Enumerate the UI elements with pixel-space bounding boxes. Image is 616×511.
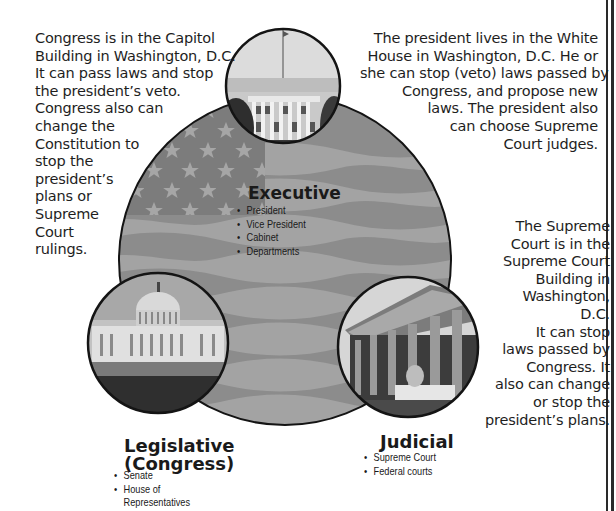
description-line: The Supreme [470, 218, 610, 236]
judicial-list: •Supreme Court •Federal courts [364, 451, 436, 478]
description-line: Court is in the [470, 236, 610, 254]
description-line: Court [35, 224, 235, 242]
bullet-icon: • [237, 218, 247, 232]
description-line: Congress. It [470, 359, 610, 377]
description-line: or stop the [470, 394, 610, 412]
legislative-description: Congress is in the Capitol Building in W… [35, 30, 235, 259]
judicial-description: The Supreme Court is in the Supreme Cour… [470, 218, 610, 429]
list-item-label: Representatives [124, 496, 190, 508]
list-item: •Departments [237, 245, 306, 259]
list-item: •House of [114, 483, 190, 497]
description-line: the president’s veto. [35, 83, 235, 101]
description-line: It can stop [470, 324, 610, 342]
description-line: can choose Supreme [360, 118, 598, 136]
list-item-label: Federal courts [374, 465, 433, 477]
list-item-label: House of [124, 483, 161, 495]
bullet-icon: • [114, 483, 124, 497]
description-line: she can stop (veto) laws passed by [360, 65, 598, 83]
judicial-title: Judicial [380, 433, 454, 450]
bullet-icon: • [364, 451, 374, 465]
description-line: Building in Washington, D.C. [35, 48, 235, 66]
legislative-list: •Senate •House of Representatives [114, 469, 190, 510]
description-line: laws. The president also [360, 100, 598, 118]
description-line: Building in [470, 271, 610, 289]
bullet-icon: • [237, 245, 247, 259]
list-item-label: Senate [124, 469, 153, 481]
description-line: Supreme [35, 206, 235, 224]
description-line: Washington, [470, 288, 610, 306]
list-item-label: Vice President [247, 218, 306, 230]
description-line: change the [35, 118, 235, 136]
list-item: •Cabinet [237, 231, 306, 245]
list-item-label: President [247, 204, 286, 216]
bullet-icon: • [364, 465, 374, 479]
list-item-label: Supreme Court [374, 451, 436, 463]
description-line: president’s [35, 171, 235, 189]
description-line: Congress, and propose new [360, 83, 598, 101]
list-item: •Vice President [237, 218, 306, 232]
description-line: rulings. [35, 241, 235, 259]
list-item: •Supreme Court [364, 451, 436, 465]
list-item: •President [237, 204, 306, 218]
description-line: stop the [35, 153, 235, 171]
list-item: Representatives [114, 496, 190, 510]
list-item-label: Cabinet [247, 231, 279, 243]
list-item: •Federal courts [364, 465, 436, 479]
description-line: president’s plans. [470, 412, 610, 430]
description-line: plans or [35, 188, 235, 206]
list-item: •Senate [114, 469, 190, 483]
description-line: It can pass laws and stop [35, 65, 235, 83]
description-line: Congress is in the Capitol [35, 30, 235, 48]
description-line: Supreme Court [470, 253, 610, 271]
bullet-icon: • [237, 204, 247, 218]
executive-description: The president lives in the White House i… [360, 30, 598, 153]
description-line: D.C. [470, 306, 610, 324]
description-line: Congress also can [35, 100, 235, 118]
description-line: The president lives in the White [360, 30, 598, 48]
description-line: also can change [470, 376, 610, 394]
bullet-icon: • [237, 231, 247, 245]
description-line: laws passed by [470, 341, 610, 359]
description-line: Court judges. [360, 136, 598, 154]
executive-title: Executive [248, 185, 341, 202]
legislative-title: Legislative (Congress) [124, 437, 234, 473]
description-line: Constitution to [35, 136, 235, 154]
list-item-label: Departments [247, 245, 300, 257]
description-line: House in Washington, D.C. He or [360, 48, 598, 66]
bullet-icon: • [114, 469, 124, 483]
executive-list: •President •Vice President •Cabinet •Dep… [237, 204, 306, 258]
